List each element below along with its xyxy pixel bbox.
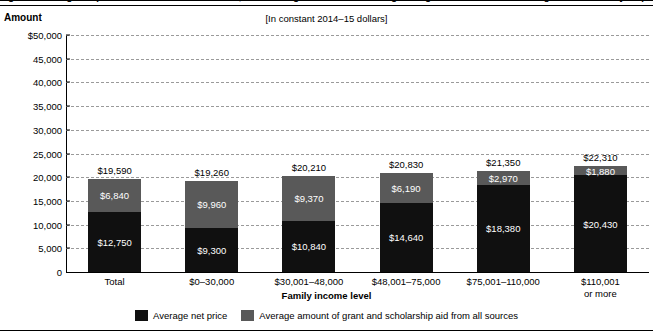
legend-label: Average amount of grant and scholarship … (259, 310, 518, 321)
y-tick-mark (66, 129, 70, 130)
bar-group[interactable]: $18,380$2,970$21,350 (477, 171, 530, 272)
gridline (66, 154, 649, 155)
y-tick-label: 30,000 (4, 124, 62, 135)
bar-value-label-grant-aid: $1,880 (574, 165, 627, 176)
bar-segment-net-price[interactable]: $14,640 (380, 203, 433, 272)
x-category-label: Total (66, 276, 163, 288)
bar-total-label: $21,350 (477, 157, 530, 168)
bar-segment-net-price[interactable]: $20,430 (574, 175, 627, 272)
chart-subtitle: [In constant 2014–15 dollars] (0, 13, 653, 24)
x-category-label: $75,001–110,000 (455, 276, 552, 288)
bar-group[interactable]: $20,430$1,880$22,310 (574, 166, 627, 272)
y-tick-mark (66, 82, 70, 83)
gridline (66, 177, 649, 178)
bar-value-label-net-price: $10,840 (282, 241, 335, 252)
x-category-label-line1: $30,001–48,000 (260, 276, 357, 288)
gridline (66, 82, 649, 83)
bar-value-label-grant-aid: $9,370 (282, 193, 335, 204)
legend-label: Average net price (153, 310, 227, 321)
x-category-label: $48,001–75,000 (358, 276, 455, 288)
bar-segment-grant-aid[interactable]: $9,370 (282, 176, 335, 220)
bottom-rule (0, 330, 653, 331)
gridline (66, 201, 649, 202)
legend-item[interactable]: Average amount of grant and scholarship … (241, 310, 518, 321)
bar-segment-grant-aid[interactable]: $2,970 (477, 171, 530, 185)
bar-value-label-net-price: $14,640 (380, 232, 433, 243)
figure-container: Figure 1. Average net price of attendanc… (0, 0, 653, 334)
bar-segment-net-price[interactable]: $10,840 (282, 221, 335, 272)
bar-value-label-net-price: $9,300 (185, 244, 238, 255)
gridline (66, 106, 649, 107)
y-tick-label: 20,000 (4, 172, 62, 183)
x-axis-title: Family income level (0, 290, 653, 301)
y-tick-mark (66, 58, 70, 59)
bar-total-label: $22,310 (574, 152, 627, 163)
y-tick-label: 15,000 (4, 195, 62, 206)
gridline (66, 248, 649, 249)
legend-swatch-icon (241, 310, 254, 321)
bar-group[interactable]: $12,750$6,840$19,590 (88, 179, 141, 272)
y-axis-tick-labels: $50,00045,00040,00035,00030,00025,00020,… (0, 35, 62, 273)
x-category-label-line1: $48,001–75,000 (358, 276, 455, 288)
x-category-label-line1: $75,001–110,000 (455, 276, 552, 288)
bar-value-label-net-price: $18,380 (477, 223, 530, 234)
bar-value-label-grant-aid: $9,960 (185, 199, 238, 210)
bar-value-label-net-price: $12,750 (88, 236, 141, 247)
y-tick-label: 40,000 (4, 77, 62, 88)
y-tick-label: 45,000 (4, 53, 62, 64)
y-tick-label: 0 (4, 267, 62, 278)
bar-total-label: $20,210 (282, 162, 335, 173)
gridline (66, 59, 649, 60)
bar-value-label-net-price: $20,430 (574, 218, 627, 229)
x-category-label-line1: $0–30,000 (163, 276, 260, 288)
bar-total-label: $19,260 (185, 167, 238, 178)
bar-segment-net-price[interactable]: $12,750 (88, 212, 141, 272)
bar-segment-grant-aid[interactable]: $9,960 (185, 181, 238, 228)
y-tick-label: 35,000 (4, 101, 62, 112)
y-tick-label: 5,000 (4, 243, 62, 254)
bar-total-label: $20,830 (380, 159, 433, 170)
x-axis-line (66, 272, 649, 273)
bar-value-label-grant-aid: $2,970 (477, 172, 530, 183)
y-tick-mark (66, 200, 70, 201)
legend-item[interactable]: Average net price (135, 310, 227, 321)
chart-legend: Average net priceAverage amount of grant… (0, 310, 653, 321)
y-tick-label: 10,000 (4, 219, 62, 230)
bar-segment-net-price[interactable]: $18,380 (477, 185, 530, 272)
x-category-label-line1: $110,001 (552, 276, 649, 288)
y-tick-label: $50,000 (4, 30, 62, 41)
bar-value-label-grant-aid: $6,190 (380, 182, 433, 193)
x-category-label: $0–30,000 (163, 276, 260, 288)
x-category-label-line1: Total (66, 276, 163, 288)
bar-segment-grant-aid[interactable]: $6,190 (380, 173, 433, 202)
bar-group[interactable]: $9,300$9,960$19,260 (185, 181, 238, 272)
y-tick-mark (66, 153, 70, 154)
y-tick-mark (66, 177, 70, 178)
y-tick-mark (66, 248, 70, 249)
y-tick-mark (66, 224, 70, 225)
y-tick-label: 25,000 (4, 148, 62, 159)
bar-segment-grant-aid[interactable]: $6,840 (88, 179, 141, 211)
bar-group[interactable]: $10,840$9,370$20,210 (282, 176, 335, 272)
plot-area: $12,750$6,840$19,590$9,300$9,960$19,260$… (66, 35, 649, 272)
gridline (66, 130, 649, 131)
bar-value-label-grant-aid: $6,840 (88, 190, 141, 201)
bar-segment-grant-aid[interactable]: $1,880 (574, 166, 627, 175)
y-tick-mark (66, 106, 70, 107)
bar-total-label: $19,590 (88, 165, 141, 176)
bar-group[interactable]: $14,640$6,190$20,830 (380, 173, 433, 272)
gridline (66, 35, 649, 36)
x-category-label: $30,001–48,000 (260, 276, 357, 288)
bar-segment-net-price[interactable]: $9,300 (185, 228, 238, 272)
legend-swatch-icon (135, 310, 148, 321)
title-bottom-rule (0, 5, 653, 6)
chart-title: Figure 1. Average net price of attendanc… (0, 0, 653, 2)
gridline (66, 225, 649, 226)
y-tick-mark (66, 35, 70, 36)
